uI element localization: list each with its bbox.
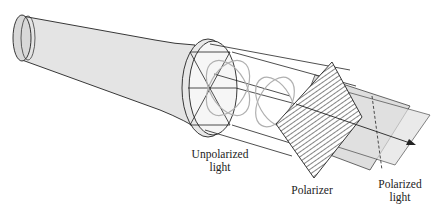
label-polarized-light: Polarized light	[368, 178, 432, 204]
label-polarizer: Polarizer	[282, 184, 342, 197]
label-unpolarized-light: Unpolarized light	[186, 148, 254, 174]
flashlight-tail-cap	[13, 15, 31, 61]
flashlight-body	[22, 16, 205, 133]
